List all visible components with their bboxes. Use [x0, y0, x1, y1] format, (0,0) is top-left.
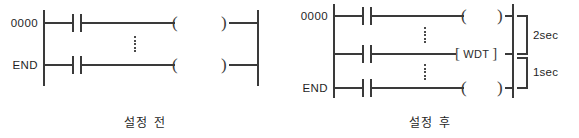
rung-wdt-wire-b — [372, 53, 456, 55]
coil-open-end-after: ( — [461, 79, 467, 96]
contact-normally-open-end — [72, 56, 82, 74]
row-label-0000-after: 0000 — [292, 10, 328, 22]
caption-before: 설정 전 — [105, 113, 185, 130]
left-power-rail-after — [333, 4, 335, 98]
instruction-label: WDT — [463, 48, 489, 60]
coil-open-0000-after: ( — [461, 7, 467, 24]
row-label-end: END — [4, 59, 38, 71]
coil-close-0000-after: ) — [497, 7, 503, 24]
rung-ellipsis — [133, 36, 137, 52]
rung-end-wire-b — [82, 64, 175, 66]
scan-bracket-1sec — [517, 57, 528, 89]
coil-close-end-after: ) — [497, 79, 503, 96]
rung-0000-wire-b — [82, 22, 175, 24]
row-label-end-after: END — [292, 82, 328, 94]
contact-normally-open-0000 — [72, 14, 82, 32]
instruction-wdt: [ WDT ] — [455, 45, 498, 62]
contact-normally-open-end-after — [362, 79, 372, 97]
panel-before: 0000 END ( ) ( ) 설정 전 — [0, 0, 290, 138]
rung-end-wire-c — [229, 64, 259, 66]
scan-bracket-2sec — [517, 15, 528, 55]
instruction-bracket-close: ] — [492, 45, 497, 62]
scan-label-2sec: 2sec — [533, 29, 558, 41]
rung-0000-wire-b-after — [372, 15, 464, 17]
rung-end-wire-b-after — [372, 87, 464, 89]
ladder-diagram-figure: 0000 END ( ) ( ) 설정 전 0000 END — [0, 0, 579, 138]
coil-close-0000: ) — [221, 14, 227, 31]
right-power-rail-after — [512, 4, 514, 98]
rung-0000-wire-a — [44, 22, 72, 24]
coil-open-end: ( — [172, 56, 178, 73]
rung-ellipsis-lower — [423, 64, 427, 80]
scan-label-1sec: 1sec — [533, 66, 558, 78]
contact-normally-open-0000-after — [362, 7, 372, 25]
contact-normally-open-wdt — [362, 45, 372, 63]
row-label-0000: 0000 — [4, 17, 38, 29]
rung-end-wire-a — [44, 64, 72, 66]
coil-open-0000: ( — [172, 14, 178, 31]
rung-end-wire-a-after — [334, 87, 362, 89]
rung-0000-wire-a-after — [334, 15, 362, 17]
coil-close-end: ) — [221, 56, 227, 73]
rung-ellipsis-upper — [423, 27, 427, 43]
instruction-bracket-open: [ — [455, 45, 460, 62]
caption-after: 설정 후 — [390, 113, 470, 130]
right-power-rail — [257, 10, 259, 86]
rung-wdt-wire-a — [334, 53, 362, 55]
panel-after: 0000 END ( ) [ WDT ] ( ) — [290, 0, 579, 138]
rung-0000-wire-c — [229, 22, 259, 24]
